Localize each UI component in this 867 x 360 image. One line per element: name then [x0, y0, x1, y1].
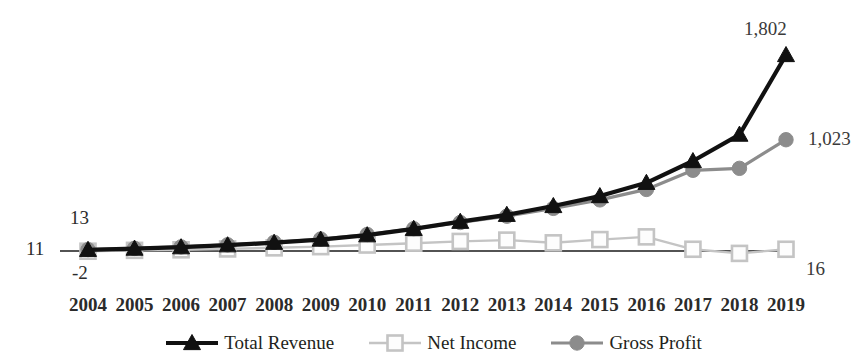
data-point-2015	[592, 232, 607, 247]
triangle-icon	[165, 334, 219, 352]
series-line	[88, 140, 786, 250]
x-axis-tick-2004: 2004	[69, 294, 107, 316]
legend-label: Total Revenue	[224, 332, 334, 354]
square-icon	[388, 336, 403, 351]
x-axis-tick-2007: 2007	[209, 294, 247, 316]
data-point-2016	[639, 229, 654, 244]
chart-legend: Total RevenueNet IncomeGross Profit	[0, 328, 867, 358]
circle-icon	[550, 334, 604, 352]
x-axis-tick-2005: 2005	[116, 294, 154, 316]
value-label-gross-profit-2019: 1,023	[808, 128, 851, 150]
x-axis-tick-2015: 2015	[581, 294, 619, 316]
x-axis-tick-labels: 2004200520062007200820092010201120122013…	[0, 294, 867, 320]
series-line	[88, 55, 786, 250]
x-axis-tick-2014: 2014	[534, 294, 572, 316]
series-layer	[80, 47, 795, 261]
legend-item-gross-profit[interactable]: Gross Profit	[550, 332, 701, 354]
x-axis-tick-2006: 2006	[162, 294, 200, 316]
series-gross-profit	[81, 133, 793, 257]
data-point-2012	[453, 234, 468, 249]
circle-icon	[570, 336, 584, 350]
series-total-revenue	[80, 47, 795, 257]
data-point-2011	[406, 236, 421, 251]
x-axis-tick-2013: 2013	[488, 294, 526, 316]
legend-label: Gross Profit	[609, 332, 701, 354]
data-point-2019	[779, 242, 794, 257]
value-label-gross-profit-2004: 13	[70, 207, 89, 229]
data-point-2018	[732, 161, 746, 175]
x-axis-tick-2017: 2017	[674, 294, 712, 316]
legend-item-net-income[interactable]: Net Income	[368, 332, 516, 354]
legend-label: Net Income	[427, 332, 516, 354]
x-axis-tick-2012: 2012	[441, 294, 479, 316]
value-label-net-income-2019: 16	[806, 258, 825, 280]
data-point-2013	[499, 233, 514, 248]
data-point-2019	[778, 47, 795, 62]
chart-container: 11 13 -2 1,802 1,023 16 2004200520062007…	[0, 0, 867, 360]
x-axis-tick-2016: 2016	[627, 294, 665, 316]
x-axis-tick-2009: 2009	[302, 294, 340, 316]
x-axis-tick-2008: 2008	[255, 294, 293, 316]
data-point-2019	[779, 133, 793, 147]
data-point-2017	[685, 242, 700, 257]
data-point-2017	[684, 153, 701, 168]
value-label-revenue-2019: 1,802	[744, 18, 787, 40]
data-point-2014	[546, 235, 561, 250]
x-axis-tick-2011: 2011	[395, 294, 432, 316]
legend-item-total-revenue[interactable]: Total Revenue	[165, 332, 334, 354]
value-label-net-income-2004: -2	[72, 262, 88, 284]
data-point-2018	[732, 246, 747, 261]
x-axis-tick-2019: 2019	[767, 294, 805, 316]
square-icon	[368, 334, 422, 352]
value-label-revenue-2004: 11	[26, 238, 44, 260]
x-axis-tick-2010: 2010	[348, 294, 386, 316]
x-axis-tick-2018: 2018	[720, 294, 758, 316]
